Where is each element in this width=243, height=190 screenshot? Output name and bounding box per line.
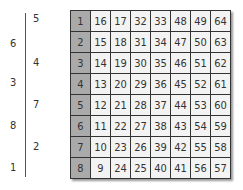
grid-row: 7 10 23 26 39 42 55 58: [71, 137, 231, 158]
grid-cell: 56: [191, 158, 211, 179]
grid-cell: 35: [151, 53, 171, 74]
label-4: 4: [33, 57, 39, 69]
row-index-cell: 8: [71, 158, 91, 179]
grid-cell: 28: [131, 95, 151, 116]
grid-cell: 27: [131, 116, 151, 137]
grid-cell: 53: [191, 95, 211, 116]
grid-cell: 41: [171, 158, 191, 179]
label-2: 2: [33, 141, 39, 153]
grid-cell: 58: [211, 137, 231, 158]
grid-cell: 37: [151, 95, 171, 116]
grid-cell: 62: [211, 53, 231, 74]
grid-row: 4 13 20 29 36 45 52 61: [71, 74, 231, 95]
grid-cell: 19: [111, 53, 131, 74]
grid-cell: 10: [91, 137, 111, 158]
grid-cell: 64: [211, 11, 231, 32]
grid-row: 2 15 18 31 34 47 50 63: [71, 32, 231, 53]
grid-cell: 47: [171, 32, 191, 53]
grid-cell: 30: [131, 53, 151, 74]
tree-axis-line: [25, 13, 26, 177]
grid-cell: 39: [151, 137, 171, 158]
grid-cell: 33: [151, 11, 171, 32]
grid-cell: 50: [191, 32, 211, 53]
grid-row: 1 16 17 32 33 48 49 64: [71, 11, 231, 32]
row-index-cell: 2: [71, 32, 91, 53]
grid-cell: 48: [171, 11, 191, 32]
grid-row: 8 9 24 25 40 41 56 57: [71, 158, 231, 179]
grid-cell: 29: [131, 74, 151, 95]
label-7: 7: [33, 99, 39, 111]
grid-cell: 23: [111, 137, 131, 158]
grid-cell: 57: [211, 158, 231, 179]
grid-cell: 25: [131, 158, 151, 179]
label-1: 1: [10, 162, 16, 174]
grid-cell: 38: [151, 116, 171, 137]
grid-cell: 36: [151, 74, 171, 95]
grid-cell: 32: [131, 11, 151, 32]
grid-cell: 18: [111, 32, 131, 53]
grid-cell: 31: [131, 32, 151, 53]
grid-cell: 55: [191, 137, 211, 158]
row-index-cell: 1: [71, 11, 91, 32]
grid-cell: 52: [191, 74, 211, 95]
label-3: 3: [10, 77, 16, 89]
grid-cell: 11: [91, 116, 111, 137]
label-5: 5: [33, 13, 39, 25]
grid-cell: 51: [191, 53, 211, 74]
grid-cell: 44: [171, 95, 191, 116]
grid-cell: 20: [111, 74, 131, 95]
grid-cell: 21: [111, 95, 131, 116]
grid-cell: 42: [171, 137, 191, 158]
grid-cell: 34: [151, 32, 171, 53]
grid-cell: 63: [211, 32, 231, 53]
grid-cell: 13: [91, 74, 111, 95]
row-index-cell: 4: [71, 74, 91, 95]
grid-cell: 43: [171, 116, 191, 137]
row-index-cell: 5: [71, 95, 91, 116]
grid-cell: 61: [211, 74, 231, 95]
grid-row: 5 12 21 28 37 44 53 60: [71, 95, 231, 116]
grid-cell: 22: [111, 116, 131, 137]
label-6: 6: [10, 38, 16, 50]
grid-cell: 45: [171, 74, 191, 95]
grid-cell: 49: [191, 11, 211, 32]
grid-cell: 16: [91, 11, 111, 32]
grid-cell: 17: [111, 11, 131, 32]
row-index-cell: 7: [71, 137, 91, 158]
grid-cell: 12: [91, 95, 111, 116]
label-8: 8: [10, 120, 16, 132]
grid-cell: 46: [171, 53, 191, 74]
row-index-cell: 6: [71, 116, 91, 137]
grid-cell: 54: [191, 116, 211, 137]
grid-cell: 60: [211, 95, 231, 116]
grid-row: 3 14 19 30 35 46 51 62: [71, 53, 231, 74]
grid-cell: 9: [91, 158, 111, 179]
number-grid: 1 16 17 32 33 48 49 64 2 15 18 31 34 47 …: [70, 10, 231, 179]
grid-cell: 24: [111, 158, 131, 179]
grid-cell: 15: [91, 32, 111, 53]
grid-cell: 40: [151, 158, 171, 179]
row-index-cell: 3: [71, 53, 91, 74]
grid-cell: 14: [91, 53, 111, 74]
grid-row: 6 11 22 27 38 43 54 59: [71, 116, 231, 137]
grid-cell: 26: [131, 137, 151, 158]
grid-cell: 59: [211, 116, 231, 137]
